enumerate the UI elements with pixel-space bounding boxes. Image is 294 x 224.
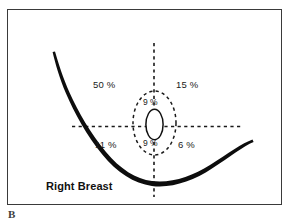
- panel-letter: B: [8, 208, 15, 220]
- quadrant-label-upper-outer: 50 %: [93, 79, 115, 90]
- figure-root: 50 % 15 % 11 % 6 % 9 % 9 % Right Breast …: [0, 0, 294, 224]
- quadrant-label-lower-inner: 6 %: [178, 139, 195, 150]
- quadrant-label-upper-inner: 15 %: [176, 79, 198, 90]
- diagram-frame: [7, 9, 282, 205]
- diagram-title: Right Breast: [46, 180, 113, 192]
- areola-label-lower: 9 %: [143, 138, 158, 148]
- areola-label-upper: 9 %: [143, 97, 158, 107]
- quadrant-label-lower-outer: 11 %: [95, 139, 117, 150]
